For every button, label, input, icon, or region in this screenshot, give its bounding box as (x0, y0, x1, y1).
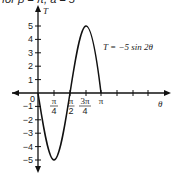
svg-text:1: 1 (28, 75, 33, 85)
equation-label: T = −5 sin 2θ (103, 42, 153, 52)
x-axis-left-arrow-icon (12, 90, 19, 96)
x-tick-labels: π 4 π 2 3π 4 π (50, 96, 104, 116)
svg-text:3: 3 (28, 48, 33, 58)
origin-label: 0 (30, 94, 35, 104)
svg-text:4: 4 (51, 106, 56, 116)
svg-text:3π: 3π (80, 96, 90, 106)
svg-text:2: 2 (28, 61, 33, 71)
svg-text:4: 4 (82, 106, 87, 116)
svg-text:4: 4 (28, 34, 33, 44)
x-axis-right-arrow-icon (164, 90, 171, 96)
svg-text:−2: −2 (23, 115, 33, 125)
y-axis-down-arrow-icon (35, 166, 41, 173)
svg-text:−5: −5 (23, 155, 33, 165)
svg-text:−4: −4 (23, 142, 33, 152)
svg-text:π: π (99, 96, 104, 106)
svg-text:2: 2 (68, 106, 73, 116)
y-axis-title: T (43, 6, 49, 16)
x-axis-title: θ (158, 99, 163, 109)
sine-chart: 5 4 3 2 1 −1 −2 −3 −4 −5 0 T θ π 4 π 2 3… (0, 0, 174, 175)
x-axis (12, 90, 171, 96)
svg-text:5: 5 (28, 21, 33, 31)
svg-text:−3: −3 (23, 128, 33, 138)
svg-text:π: π (52, 96, 57, 106)
y-axis (35, 5, 41, 173)
y-axis-up-arrow-icon (35, 5, 41, 12)
